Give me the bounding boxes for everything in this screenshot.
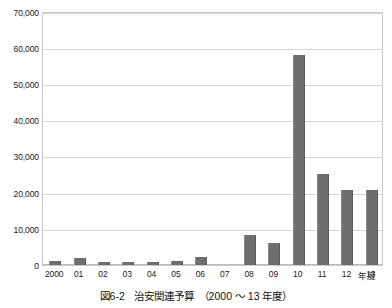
x-axis-title: 年度 (358, 269, 376, 281)
y-axis-label: 0 (0, 261, 39, 271)
plot-area (42, 12, 383, 266)
y-axis-label: 60,000 (0, 44, 39, 54)
bar (366, 190, 378, 265)
bar (147, 262, 159, 265)
bar (195, 257, 207, 265)
y-axis-label: 30,000 (0, 152, 39, 162)
bar (122, 262, 134, 265)
gridline (43, 85, 382, 86)
bar (171, 261, 183, 265)
bar (341, 190, 353, 265)
y-axis-label: 10,000 (0, 225, 39, 235)
bar (293, 55, 305, 265)
figure-caption: 図6-2 治安関連予算 （2000 〜 13 年度） (0, 288, 392, 303)
bar (268, 243, 280, 265)
y-axis-label: 50,000 (0, 80, 39, 90)
gridline (43, 121, 382, 122)
figure-container: 70,000 60,000 50,000 40,000 30,000 20,00… (0, 0, 392, 308)
gridline (43, 194, 382, 195)
bar (317, 174, 329, 265)
bar (49, 261, 61, 265)
caption-number: 図6-2 (100, 290, 125, 302)
gridline (43, 13, 382, 14)
bar (98, 262, 110, 265)
y-axis-label: 40,000 (0, 116, 39, 126)
gridline (43, 230, 382, 231)
gridline (43, 49, 382, 50)
caption-title: 治安関連予算 (134, 290, 194, 302)
gridline (43, 157, 382, 158)
caption-range: （2000 〜 13 年度） (199, 290, 293, 302)
axis-baseline (43, 264, 382, 265)
bar (244, 235, 256, 265)
bar (74, 258, 86, 265)
y-axis-label: 20,000 (0, 189, 39, 199)
y-axis-label: 70,000 (0, 8, 39, 18)
